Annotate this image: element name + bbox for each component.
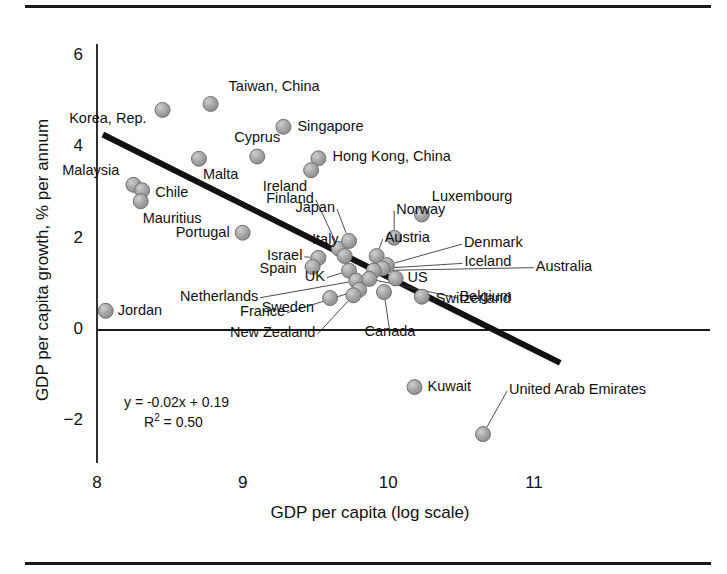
r-squared-annotation: R2 = 0.50 (144, 412, 203, 430)
data-point-marker (250, 149, 265, 164)
regression-equation: y = -0.02x + 0.19 (124, 394, 229, 410)
data-point-marker (407, 380, 422, 395)
figure-container: −20246891011 Taiwan, ChinaKorea, Rep.Sin… (0, 0, 727, 574)
x-tick-label: 11 (504, 473, 564, 493)
data-point-label: United Arab Emirates (509, 382, 646, 397)
data-point-label: Norway (396, 202, 445, 217)
data-point-marker (414, 289, 429, 304)
data-point-label: Austria (385, 230, 430, 245)
data-point-label: Iceland (465, 254, 512, 269)
data-point-marker (376, 285, 391, 300)
y-tick-label: −2 (39, 410, 83, 430)
data-point-label: Malaysia (0, 163, 119, 178)
data-point-label: Taiwan, China (229, 79, 320, 94)
data-point-marker (323, 291, 338, 306)
data-point-marker (191, 151, 206, 166)
data-point-label: Kuwait (428, 379, 472, 394)
data-point-label: Jordan (118, 303, 162, 318)
y-axis-label: GDP per capita growth, % per annum (33, 110, 53, 410)
x-tick-label: 10 (358, 473, 418, 493)
r-symbol: R (144, 414, 154, 430)
data-point-label: Korea, Rep. (0, 111, 147, 126)
data-point-marker (346, 288, 361, 303)
data-point-label: Australia (536, 259, 592, 274)
data-point-marker (155, 102, 170, 117)
label-leader-line (379, 239, 382, 248)
x-axis-label: GDP per capita (log scale) (180, 503, 560, 523)
data-point-label: Hong Kong, China (332, 149, 451, 164)
x-tick-label: 9 (213, 473, 273, 493)
data-point-label: Canada (310, 324, 470, 339)
x-tick-label: 8 (67, 473, 127, 493)
label-leader-line (327, 273, 341, 278)
data-point-marker (342, 233, 357, 248)
r-value: = 0.50 (160, 414, 203, 430)
label-leader-line (337, 209, 346, 234)
data-point-label: Denmark (464, 235, 523, 250)
label-leader-line (487, 391, 507, 427)
y-tick-label: 6 (39, 45, 83, 65)
data-point-marker (304, 163, 319, 178)
label-leader-line (395, 244, 462, 263)
data-point-marker (337, 249, 352, 264)
data-point-label: Cyprus (177, 130, 337, 145)
data-point-marker (388, 271, 403, 286)
data-point-marker (476, 427, 491, 442)
data-point-label: Switzerland (436, 291, 511, 306)
data-point-marker (203, 96, 218, 111)
label-leader-line (390, 263, 462, 268)
data-point-label: US (408, 270, 428, 285)
